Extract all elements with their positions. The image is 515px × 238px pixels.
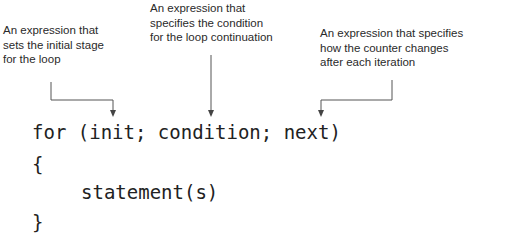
code-open-brace: { [32, 153, 43, 175]
code-close-brace: } [32, 211, 43, 233]
code-body: statement(s) [81, 181, 218, 203]
init-arrow-icon [51, 82, 113, 110]
connector-arrows [0, 0, 515, 238]
next-arrow-icon [321, 80, 392, 110]
code-header: for (init; condition; next) [32, 121, 341, 143]
